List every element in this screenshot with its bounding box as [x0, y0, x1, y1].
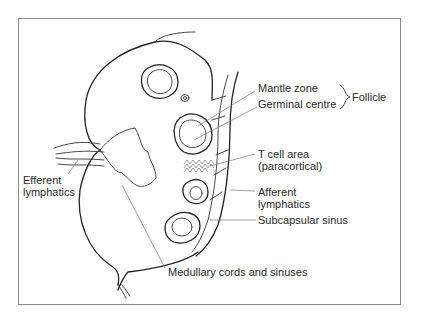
t-cell-area-hatch	[184, 160, 214, 172]
follicle-bottom	[165, 212, 200, 243]
subcapsular-sinus-inner	[192, 75, 228, 252]
label-afferent-lymphatics: Afferent lymphatics	[258, 186, 310, 210]
label-t-cell-area-line2: (paracortical)	[258, 160, 322, 172]
leader-medullary	[122, 185, 165, 268]
leader-germinal-centre	[194, 107, 257, 140]
label-t-cell-area: T cell area (paracortical)	[258, 148, 322, 172]
leader-mantle-zone	[198, 91, 255, 126]
label-efferent-lymphatics: Efferent lymphatics	[23, 174, 75, 198]
label-mantle-zone: Mantle zone	[258, 82, 318, 94]
label-subcapsular-sinus: Subcapsular sinus	[258, 214, 348, 226]
follicle-lower	[183, 180, 208, 204]
efferent-lymphatics	[54, 142, 104, 166]
label-t-cell-area-line1: T cell area	[258, 148, 322, 160]
label-germinal-centre: Germinal centre	[258, 98, 336, 110]
medulla-outline	[100, 128, 156, 186]
follicle-middle	[174, 114, 212, 154]
leader-efferent	[68, 160, 78, 174]
follicle-brace	[340, 85, 350, 109]
label-afferent-line2: lymphatics	[258, 198, 310, 210]
label-follicle: Follicle	[352, 91, 386, 103]
follicle-top	[141, 65, 178, 98]
bottom-vessel	[118, 285, 130, 298]
label-efferent-line2: lymphatics	[23, 186, 75, 198]
small-vessel	[181, 95, 189, 102]
afferent-segment-3	[210, 192, 222, 200]
top-vessel	[155, 32, 195, 42]
label-efferent-line1: Efferent	[23, 174, 75, 186]
leader-afferent	[230, 190, 255, 191]
label-medullary: Medullary cords and sinuses	[168, 266, 307, 278]
label-afferent-line1: Afferent	[258, 186, 310, 198]
